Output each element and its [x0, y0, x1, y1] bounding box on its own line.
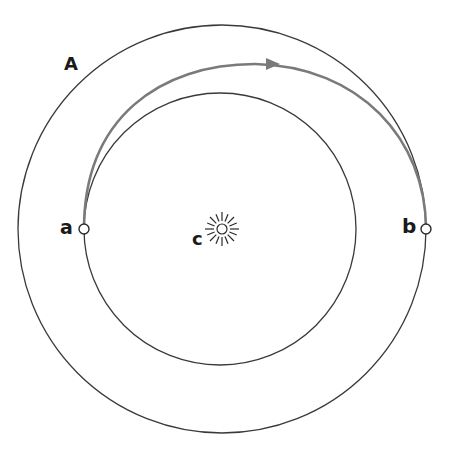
label-point-a: a — [60, 218, 73, 237]
direction-arrow-icon — [266, 58, 280, 70]
transfer-path — [84, 64, 426, 229]
sun-icon — [205, 212, 239, 246]
label-outer-orbit-A: A — [64, 55, 78, 73]
point-a-marker — [79, 224, 89, 234]
point-b-marker — [421, 224, 431, 234]
label-center-c: c — [192, 230, 203, 248]
label-point-b: b — [402, 216, 416, 236]
